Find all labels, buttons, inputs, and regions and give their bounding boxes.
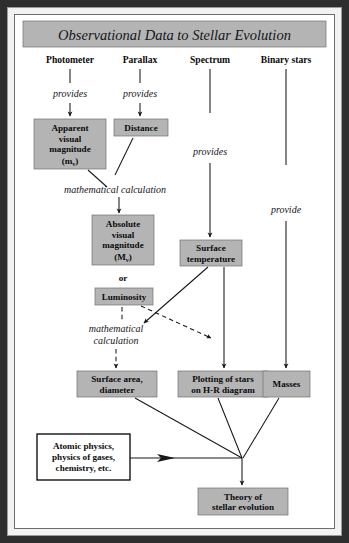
edge-masses-to-junction [243,398,279,458]
box-absolute-magnitude-line2: visual [112,230,135,240]
box-masses-label: Masses [273,379,301,389]
box-atomic-physics-line1: Atomic physics, [53,441,114,451]
edge-surface-area-to-junction [135,398,242,458]
edge-luminosity-to-hr-diagram [141,306,211,338]
edge-label-math-calc-lower-line2: calculation [94,335,139,346]
box-absolute-magnitude-symbol: (Mv) [114,252,132,263]
edge-label-math-calc-upper: mathematical calculation [64,184,166,195]
figure-title: Observational Data to Stellar Evolution [58,27,291,43]
box-distance-label: Distance [124,123,157,133]
column-heading-parallax: Parallax [123,54,158,65]
figure-frame: Observational Data to Stellar Evolution … [0,0,349,543]
box-absolute-magnitude-line1: Absolute [106,219,140,229]
edge-distance-to-math-calc [115,138,133,175]
box-surface-temperature-line2: temperature [187,254,235,264]
box-hr-diagram-line2: on H-R diagram [191,385,255,395]
stellar-evolution-flowchart: Observational Data to Stellar Evolution … [15,15,334,528]
label-or: or [119,273,128,283]
box-apparent-magnitude-symbol-prefix: (m [62,156,73,166]
edge-label-photometer-provides: provides [52,88,87,99]
column-heading-spectrum: Spectrum [190,54,230,65]
edge-label-math-calc-lower-line1: mathematical [89,323,144,334]
edge-label-spectrum-provides: provides [192,146,227,157]
column-heading-binary-stars: Binary stars [261,54,312,65]
box-absolute-magnitude-line3: magnitude [102,240,143,250]
column-heading-photometer: Photometer [46,54,95,65]
box-apparent-magnitude-line2: visual [59,134,82,144]
edge-surface-temperature-to-surface-area [144,267,208,323]
edge-hr-diagram-to-junction [218,398,242,458]
box-surface-area-line1: Surface area, [91,374,142,384]
box-theory-line2: stellar evolution [212,502,274,512]
box-surface-temperature-line1: Surface [196,243,226,253]
box-atomic-physics-line3: chemistry, etc. [56,463,112,473]
box-apparent-magnitude-line3: magnitude [49,144,90,154]
box-absolute-magnitude-symbol-prefix: (M [114,252,126,262]
diagram-panel: Observational Data to Stellar Evolution … [14,14,335,529]
box-apparent-magnitude-symbol-suffix: ) [75,156,78,166]
edge-label-binary-provide: provide [270,204,302,215]
box-apparent-magnitude-symbol: (mv) [62,156,79,167]
box-apparent-magnitude-line1: Apparent [51,123,88,133]
box-hr-diagram-line1: Plotting of stars [192,374,254,384]
box-atomic-physics-line2: physics of gases, [52,452,115,462]
box-absolute-magnitude-symbol-suffix: ) [129,252,132,262]
edge-label-parallax-provides: provides [122,88,157,99]
box-theory-line1: Theory of [224,492,263,502]
box-luminosity-label: Luminosity [102,292,147,302]
box-surface-area-line2: diameter [100,385,135,395]
